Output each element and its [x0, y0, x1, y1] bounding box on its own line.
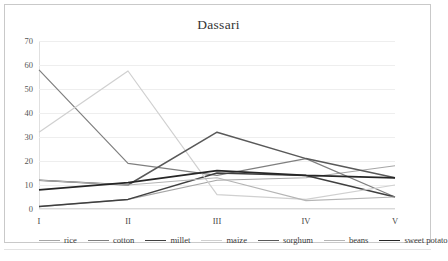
- legend-label: rice: [64, 236, 77, 245]
- plot-area: 010203040506070 IIIIIIIVV: [39, 41, 395, 209]
- series-lines: [39, 41, 395, 209]
- legend-label: beans: [349, 236, 369, 245]
- chart-legend: ricecottonmilletmaizesorghumbeanssweet p…: [39, 233, 435, 247]
- chart-card: Dassari 010203040506070 IIIIIIIVV riceco…: [4, 4, 431, 243]
- legend-swatch: [324, 240, 345, 241]
- legend-swatch: [88, 240, 109, 241]
- x-axis-tick-label: I: [38, 216, 41, 226]
- legend-label: maize: [226, 236, 247, 245]
- legend-item[interactable]: cotton: [88, 236, 134, 245]
- x-axis-tick-label: V: [392, 216, 398, 226]
- y-axis-tick-label: 10: [25, 181, 34, 190]
- card-shadow-divider: [4, 249, 431, 250]
- x-axis-tick-label: IV: [302, 216, 311, 226]
- legend-swatch: [145, 240, 166, 241]
- legend-label: sorghum: [283, 236, 313, 245]
- y-axis-tick-label: 40: [25, 109, 34, 118]
- legend-item[interactable]: maize: [201, 236, 247, 245]
- y-axis-tick-label: 20: [25, 157, 34, 166]
- y-axis-tick-label: 0: [29, 205, 33, 214]
- legend-label: sweet potato: [404, 236, 447, 245]
- x-axis-tick-label: III: [213, 216, 222, 226]
- legend-swatch: [379, 240, 400, 241]
- legend-item[interactable]: millet: [145, 236, 190, 245]
- y-axis-tick-label: 70: [25, 37, 34, 46]
- y-axis-tick-label: 60: [25, 61, 34, 70]
- gridline: [39, 209, 395, 210]
- legend-swatch: [39, 240, 60, 241]
- y-axis-tick-label: 50: [25, 85, 34, 94]
- legend-label: cotton: [113, 236, 134, 245]
- series-line: [39, 178, 395, 201]
- legend-swatch: [258, 240, 279, 241]
- legend-swatch: [201, 240, 222, 241]
- legend-label: millet: [170, 236, 190, 245]
- legend-item[interactable]: sorghum: [258, 236, 313, 245]
- legend-item[interactable]: sweet potato: [379, 236, 447, 245]
- x-axis-tick-label: II: [125, 216, 131, 226]
- chart-title: Dassari: [5, 17, 432, 33]
- legend-item[interactable]: beans: [324, 236, 369, 245]
- legend-item[interactable]: rice: [39, 236, 77, 245]
- y-axis-tick-label: 30: [25, 133, 34, 142]
